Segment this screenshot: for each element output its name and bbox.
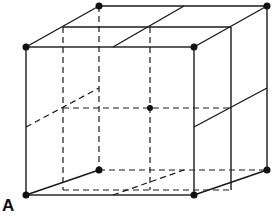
point-back-top-right [264, 3, 271, 10]
point-back-top-left [96, 3, 103, 10]
point-front-bottom-left [23, 192, 30, 199]
point-front-bottom-right [191, 192, 198, 199]
front-face [26, 47, 194, 195]
bottom-mid-line [113, 170, 184, 195]
point-back-bottom-left [96, 167, 103, 174]
point-front-top-right [191, 44, 198, 51]
cube-diagram [0, 0, 273, 221]
point-front-top-left [23, 44, 30, 51]
point-back-bottom-right [264, 167, 271, 174]
point-body-center [147, 105, 153, 111]
figure-label: A [2, 196, 14, 216]
